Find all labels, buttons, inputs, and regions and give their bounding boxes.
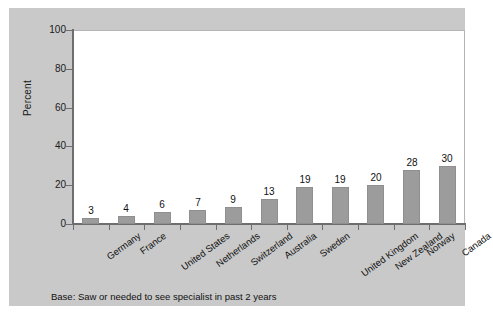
bar [225,207,242,224]
bar-value-label: 28 [398,157,426,168]
bar [296,187,313,224]
x-axis-tick-mark [144,225,145,230]
bar [118,216,135,224]
bar [189,210,206,224]
y-axis-tick-label: 0 [32,219,66,229]
bar-value-label: 19 [326,174,354,185]
bar-value-label: 13 [255,186,283,197]
x-axis-tick-mark [322,225,323,230]
x-axis-category-label: Canada [459,230,492,258]
x-axis-tick-mark [394,225,395,230]
y-axis-tick: 40 [9,141,66,151]
y-axis-line [72,29,74,225]
x-axis-tick-mark [251,225,252,230]
x-axis-tick-mark [358,225,359,230]
y-axis-tick: 20 [9,180,66,190]
x-axis-tick-mark [429,225,430,230]
bar-value-label: 4 [112,203,140,214]
y-axis-tick-mark [66,146,72,147]
y-axis-tick: 80 [9,64,66,74]
x-axis-tick-mark [180,225,181,230]
x-axis-category-label: France [138,230,168,256]
y-axis-tick: 100 [9,25,66,35]
bar-value-label: 30 [433,153,461,164]
bar-value-label: 19 [291,174,319,185]
x-axis-tick-mark [73,225,74,230]
chart-panel: Percent 020406080100 34679131919202830 G… [9,8,465,306]
bar [82,218,99,224]
y-axis-tick-label: 100 [32,25,66,35]
bar [367,185,384,224]
bar [439,166,456,224]
y-axis-tick-label: 40 [32,141,66,151]
x-axis-tick-mark [109,225,110,230]
y-axis-tick-mark [66,30,72,31]
x-axis-tick-mark [465,225,466,230]
bar-value-label: 6 [148,199,176,210]
x-axis-tick-mark [216,225,217,230]
y-axis-tick-mark [66,108,72,109]
y-axis-tick-mark [66,185,72,186]
y-axis-tick-mark [66,224,72,225]
bar [261,199,278,224]
bar-value-label: 7 [184,197,212,208]
chart-footnote: Base: Saw or needed to see specialist in… [51,291,277,302]
bar [154,212,171,224]
y-axis-tick: 60 [9,103,66,113]
bar-value-label: 20 [362,172,390,183]
bar [403,170,420,224]
bar [332,187,349,224]
x-axis-category-label: Germany [104,230,142,262]
y-axis-tick: 0 [9,219,66,229]
y-axis-tick-label: 20 [32,180,66,190]
y-axis-tick-label: 80 [32,64,66,74]
bar-value-label: 9 [219,194,247,205]
y-axis-tick-label: 60 [32,103,66,113]
bar-value-label: 3 [77,205,105,216]
y-axis-tick-mark [66,69,72,70]
x-axis-category-label: Sweden [318,230,352,259]
